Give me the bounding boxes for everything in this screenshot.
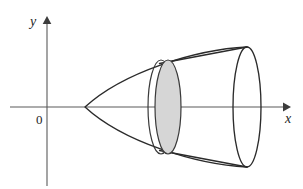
axes-group xyxy=(10,16,291,186)
cone-lower-edge xyxy=(160,151,248,168)
cone-upper-edge xyxy=(160,47,248,64)
origin-label: 0 xyxy=(36,113,43,126)
geometry-diagram-svg xyxy=(0,0,303,189)
x-axis-label: x xyxy=(285,112,291,126)
shaded-cross-section-disk xyxy=(155,60,181,154)
figure-canvas: y x 0 xyxy=(0,0,303,189)
y-axis-arrowhead xyxy=(43,16,52,24)
y-axis-label: y xyxy=(30,15,36,29)
